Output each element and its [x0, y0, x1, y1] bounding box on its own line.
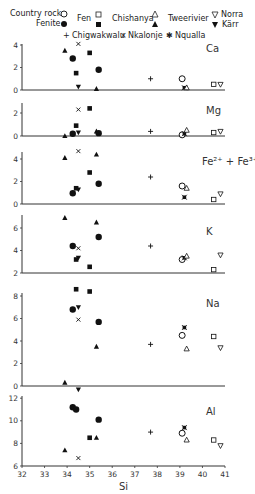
y-tick-label: 2 [13, 177, 18, 186]
star-icon: ✱ [166, 31, 173, 40]
data-point [70, 190, 76, 196]
x-axis-label: Si [119, 481, 128, 492]
data-point [218, 129, 223, 134]
data-point [148, 129, 153, 134]
panel-mg: 02Mg [13, 103, 225, 141]
data-point [76, 318, 80, 322]
y-tick-label: 2 [13, 109, 18, 118]
x-tick-label: 34 [62, 470, 72, 479]
data-point [62, 215, 67, 220]
y-tick-label: 12 [8, 394, 18, 403]
x-tick-label: 40 [198, 470, 208, 479]
y-tick-label: 0 [13, 86, 18, 95]
legend-chishanya: Chishanya [112, 14, 154, 23]
x-tick-label: 41 [220, 470, 230, 479]
open-circle-icon [61, 11, 67, 17]
panel-al: 681012Al [8, 394, 225, 471]
panel-label: Fe²⁺ + Fe³⁺ [202, 156, 255, 167]
x-tick-label: 35 [85, 470, 95, 479]
x-tick-label: 33 [40, 470, 50, 479]
data-point [95, 234, 101, 240]
data-point [218, 444, 223, 449]
data-point [184, 253, 189, 258]
panel-na: 02468Na [13, 287, 225, 392]
filled-square-icon [96, 22, 101, 27]
x-tick-label: 32 [17, 470, 27, 479]
data-point [182, 425, 187, 430]
legend-chigwakwalu: Chigwakwalu [72, 31, 125, 40]
legend-norra: Norra [221, 10, 243, 19]
data-point [212, 267, 216, 271]
data-point [76, 108, 80, 112]
data-point [182, 195, 187, 200]
y-tick-label: 2 [13, 269, 18, 278]
open-down-triangle-icon [212, 12, 218, 18]
data-point [87, 170, 92, 175]
data-point [179, 183, 185, 189]
data-point [62, 447, 67, 452]
data-point [76, 305, 81, 310]
data-point [87, 435, 92, 440]
legend-karr: Kärr [222, 20, 239, 29]
panel-label: K [206, 226, 213, 237]
data-point [212, 197, 216, 201]
data-point [87, 289, 92, 294]
data-point [212, 130, 216, 134]
y-tick-label: 4 [13, 41, 18, 50]
data-point [87, 51, 92, 56]
data-point [76, 149, 80, 153]
data-point [179, 76, 185, 82]
legend-nkalonje: Nkalonje [128, 31, 163, 40]
data-point [76, 85, 81, 90]
legend-fenite: Fenite [36, 19, 61, 28]
y-tick-label: 6 [13, 314, 18, 323]
y-tick-label: 0 [13, 200, 18, 209]
open-square-icon [96, 12, 101, 17]
y-tick-label: 4 [13, 155, 18, 164]
x-tick-label: 39 [175, 470, 185, 479]
panel-label: Mg [206, 105, 221, 116]
y-tick-label: 4 [13, 246, 18, 255]
data-point [95, 319, 101, 325]
data-point [76, 42, 80, 46]
data-point [184, 127, 189, 132]
legend-nqualla: Nqualla [175, 31, 205, 40]
y-tick-label: 2 [13, 63, 18, 72]
data-point [218, 346, 223, 351]
data-point [87, 106, 92, 111]
data-point [95, 416, 101, 422]
cross-icon: × [120, 31, 127, 40]
data-point [212, 334, 216, 338]
filled-down-triangle-icon [212, 22, 218, 28]
data-point [73, 406, 79, 412]
data-point [95, 130, 101, 136]
panel-label: Al [206, 406, 216, 417]
data-point [74, 287, 79, 292]
y-tick-label: 6 [13, 224, 18, 233]
data-point [95, 181, 101, 187]
data-point [74, 71, 79, 76]
data-point [87, 265, 92, 270]
data-point [179, 430, 185, 436]
legend-fen: Fen [77, 14, 91, 23]
data-point [94, 152, 99, 157]
panel-label: Ca [206, 43, 219, 54]
data-point [184, 346, 189, 351]
plus-icon: + [63, 31, 70, 40]
data-point [184, 437, 189, 442]
data-point [212, 438, 216, 442]
panel-fefe: 024Fe²⁺ + Fe³⁺ [13, 149, 255, 208]
data-point [218, 82, 223, 87]
data-point [148, 175, 153, 180]
data-point [62, 155, 67, 160]
panel-label: Na [206, 298, 220, 309]
y-tick-label: 0 [13, 382, 18, 391]
data-point [94, 220, 99, 225]
data-point [94, 344, 99, 349]
chart-svg: Country rock Fenite Fen Chishanya Tweeri… [0, 0, 255, 494]
y-tick-label: 0 [13, 132, 18, 141]
panel-ca: 024Ca [13, 41, 225, 95]
data-point [95, 67, 101, 73]
data-point [148, 342, 153, 347]
data-point [70, 243, 76, 249]
